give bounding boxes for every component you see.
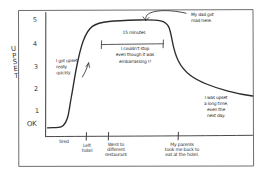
y-tick-label-2: 2: [34, 86, 38, 93]
x-tick-label-left-hotel: Left hotel: [76, 144, 98, 154]
hand-drawn-chart-svg: [0, 0, 270, 176]
annotation-upset-long-time: I was upset a long time, even the next d…: [192, 95, 240, 120]
annotation-couldnt-stop: I couldn't stop even though it was embar…: [104, 46, 166, 65]
y-tick-label-5: 5: [33, 17, 37, 24]
y-axis-title-letter-t: T: [10, 72, 23, 80]
y-tick-label-3: 3: [33, 64, 37, 71]
y-tick-label-4: 4: [33, 41, 37, 48]
x-tick-label-different-restaurant: Went to different restaurant: [99, 143, 133, 157]
y-tick-label-1: 1: [35, 108, 39, 115]
annotation-dad-got-mad: My dad got mad here.: [191, 12, 235, 24]
x-tick-label-back-to-hotel: My parents took me back to eat at the ho…: [156, 143, 208, 157]
y-tick-label-ok: OK: [27, 121, 37, 129]
x-tick-label-tired: tired: [50, 140, 78, 145]
annotation-fifteen-minutes: 15 minutes: [114, 31, 154, 36]
chart-page: U P S E T 5 4 3 2 1 OK tired Left hotel …: [0, 0, 270, 176]
annotation-got-upset: I got upset really quickly: [56, 58, 92, 76]
paper-background: [0, 0, 270, 176]
